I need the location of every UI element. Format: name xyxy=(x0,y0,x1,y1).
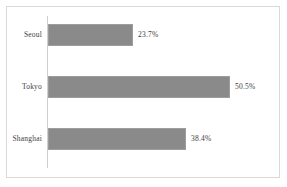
bar-row: Seoul 23.7% xyxy=(7,24,281,46)
plot-area: Seoul 23.7% Tokyo 50.5% Shanghai 38.4% xyxy=(7,7,281,179)
bar-value-label: 23.7% xyxy=(138,24,158,46)
bar-category-label: Tokyo xyxy=(7,76,42,98)
bar-row: Tokyo 50.5% xyxy=(7,76,281,98)
bar-rect xyxy=(48,24,133,46)
chart-frame: Seoul 23.7% Tokyo 50.5% Shanghai 38.4% xyxy=(6,6,280,178)
bar-category-label: Shanghai xyxy=(7,128,42,150)
bar-value-label: 38.4% xyxy=(191,128,211,150)
bar-category-label: Seoul xyxy=(7,24,42,46)
bar-value-label: 50.5% xyxy=(235,76,255,98)
bar-rect xyxy=(48,128,186,150)
bar-rect xyxy=(48,76,230,98)
bar-row: Shanghai 38.4% xyxy=(7,128,281,150)
